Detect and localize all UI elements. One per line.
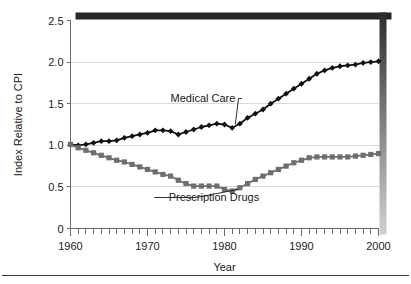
marker <box>268 170 273 175</box>
marker <box>191 183 196 188</box>
marker <box>299 158 304 163</box>
marker <box>99 153 104 158</box>
marker <box>214 183 219 188</box>
marker <box>83 148 88 153</box>
marker <box>199 183 204 188</box>
marker <box>176 178 181 183</box>
y-tick-label-0: 0 <box>57 223 63 235</box>
x-axis-title: Year <box>213 261 236 273</box>
marker <box>145 167 150 172</box>
marker <box>114 158 119 163</box>
marker <box>91 150 96 155</box>
chart-figure: 00.51.01.52.02.519601970198019902000 Med… <box>0 0 411 284</box>
marker <box>353 154 358 159</box>
marker <box>314 154 319 159</box>
marker <box>291 160 296 165</box>
marker <box>276 167 281 172</box>
annotation-label-medical-care: Medical Care <box>171 92 236 104</box>
marker <box>183 181 188 186</box>
marker <box>376 151 381 156</box>
marker <box>337 154 342 159</box>
x-tick-label-1980: 1980 <box>212 240 236 252</box>
marker <box>245 181 250 186</box>
annotation-label-prescription-drugs: Prescription Drugs <box>169 191 260 203</box>
marker <box>330 154 335 159</box>
y-tick-label-2: 2.0 <box>48 56 63 68</box>
x-tick-label-1960: 1960 <box>58 240 82 252</box>
marker <box>76 145 81 150</box>
marker <box>260 173 265 178</box>
y-axis-title: Index Relative to CPI <box>12 73 24 176</box>
marker <box>361 153 366 158</box>
x-tick-label-2000: 2000 <box>366 240 390 252</box>
marker <box>160 172 165 177</box>
y-tick-label-1: 1.0 <box>48 139 63 151</box>
marker <box>130 162 135 167</box>
marker <box>68 142 73 147</box>
marker <box>345 154 350 159</box>
marker <box>322 154 327 159</box>
marker <box>106 155 111 160</box>
y-tick-label-0.5: 0.5 <box>48 181 63 193</box>
index-relative-to-cpi-chart: 00.51.01.52.02.519601970198019902000 Med… <box>0 0 411 284</box>
marker <box>253 177 258 182</box>
x-tick-label-1990: 1990 <box>289 240 313 252</box>
marker <box>207 183 212 188</box>
marker <box>153 169 158 174</box>
marker <box>368 152 373 157</box>
marker <box>284 164 289 169</box>
y-tick-label-1.5: 1.5 <box>48 98 63 110</box>
marker <box>137 164 142 169</box>
marker <box>307 155 312 160</box>
marker <box>122 159 127 164</box>
marker <box>168 173 173 178</box>
x-tick-label-1970: 1970 <box>135 240 159 252</box>
frame-top-bar <box>76 13 392 20</box>
y-tick-label-2.5: 2.5 <box>48 15 63 27</box>
frame-right-shadow <box>380 13 387 235</box>
